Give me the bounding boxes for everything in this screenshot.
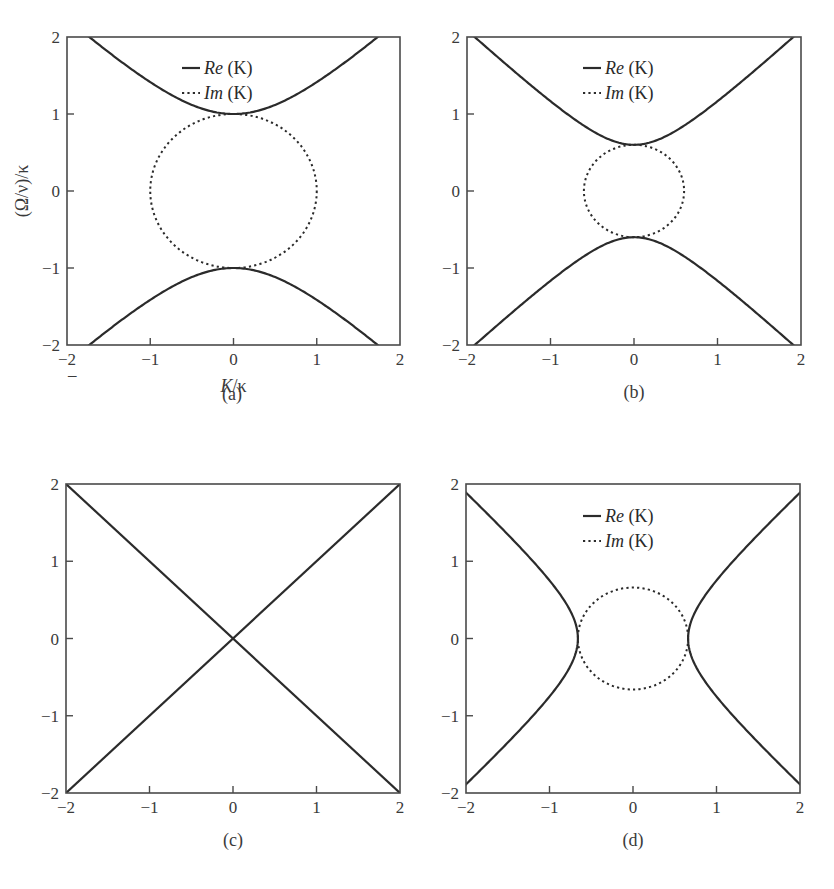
y-tick-label: 0 (452, 182, 461, 201)
y-tick-label: 2 (451, 475, 460, 494)
legend-entry-im: Im (K) (604, 531, 654, 552)
y-tick-label: −1 (42, 259, 60, 278)
x-tick-label: 2 (396, 350, 405, 369)
x-tick-label: −1 (140, 798, 158, 817)
legend-entry-re: Re (K) (203, 58, 252, 79)
y-tick-label: 2 (452, 28, 461, 47)
y-tick-label: 0 (51, 630, 60, 649)
panel-label: (b) (624, 382, 645, 403)
re-curve-lower (67, 268, 400, 363)
legend: Re (K)Im (K) (182, 58, 253, 104)
legend: Re (K)Im (K) (583, 506, 654, 552)
y-tick-label: −1 (41, 707, 59, 726)
x-tick-label: −1 (540, 798, 558, 817)
y-tick-label: 0 (451, 630, 460, 649)
y-tick-label: −2 (442, 336, 460, 355)
legend-entry-re: Re (K) (604, 58, 653, 79)
x-tick-label: 1 (312, 798, 321, 817)
panel-label: (d) (623, 830, 644, 851)
x-tick-label: 0 (629, 798, 638, 817)
x-tick-label: 0 (229, 798, 238, 817)
legend-entry-im: Im (K) (203, 83, 253, 104)
stray-mark: – (67, 365, 77, 384)
x-tick-label: 2 (396, 798, 405, 817)
x-tick-label: −2 (458, 350, 476, 369)
plot-area-b (467, 30, 801, 352)
panel-label: (a) (222, 384, 242, 405)
x-tick-label: −2 (57, 798, 75, 817)
re-curve-left (457, 484, 578, 793)
y-tick-label: 1 (52, 105, 61, 124)
y-tick-label: −2 (441, 784, 459, 803)
x-tick-label: −2 (457, 798, 475, 817)
figure-canvas: −2−1012210−1−2K/κ(Ω/ν)/κ(a)Re (K)Im (K)−… (0, 0, 834, 889)
x-tick-label: 0 (229, 350, 238, 369)
y-tick-label: 0 (52, 182, 61, 201)
y-tick-label: −1 (442, 259, 460, 278)
x-tick-label: 1 (712, 798, 721, 817)
re-curve-right (688, 484, 809, 793)
x-tick-label: 2 (796, 798, 805, 817)
panel-d: −2−1012210−1−2(d)Re (K)Im (K) (441, 475, 809, 851)
x-tick-label: −1 (541, 350, 559, 369)
x-tick-label: 1 (313, 350, 322, 369)
y-tick-label: 2 (51, 475, 60, 494)
y-tick-label: 1 (452, 105, 461, 124)
y-tick-label: −2 (41, 784, 59, 803)
x-tick-label: −1 (141, 350, 159, 369)
panel-a: −2−1012210−1−2K/κ(Ω/ν)/κ(a)Re (K)Im (K) (12, 19, 404, 405)
im-curve-circle (150, 114, 317, 268)
y-tick-label: 1 (451, 552, 460, 571)
x-tick-label: 2 (797, 350, 806, 369)
x-tick-label: 1 (713, 350, 722, 369)
im-curve-circle (578, 588, 688, 690)
legend: Re (K)Im (K) (583, 58, 654, 104)
y-axis-title: (Ω/ν)/κ (12, 165, 33, 218)
panels-group: −2−1012210−1−2K/κ(Ω/ν)/κ(a)Re (K)Im (K)−… (12, 19, 809, 851)
re-curve-lower (467, 237, 801, 352)
legend-entry-im: Im (K) (604, 83, 654, 104)
plot-area-c (66, 484, 400, 793)
y-tick-label: −2 (42, 336, 60, 355)
x-tick-label: 0 (630, 350, 639, 369)
im-curve-circle (584, 145, 684, 237)
panel-c: −2−1012210−1−2(c) (41, 475, 404, 851)
panel-label: (c) (223, 830, 243, 851)
legend-entry-re: Re (K) (604, 506, 653, 527)
panel-b: −2−1012210−1−2(b)Re (K)Im (K) (442, 28, 805, 403)
y-tick-label: 1 (51, 552, 60, 571)
y-tick-label: 2 (52, 28, 61, 47)
y-tick-label: −1 (441, 707, 459, 726)
